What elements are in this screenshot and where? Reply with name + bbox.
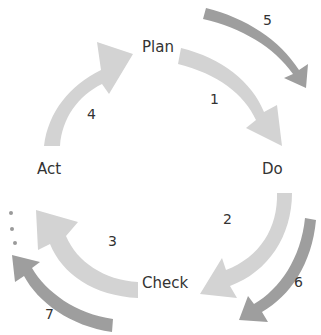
arrow-1-plan-to-do: [178, 48, 282, 146]
arrow-number-7: 7: [45, 306, 54, 322]
arrow-3-check-to-act: [36, 210, 138, 298]
continuation-dot-2: [10, 227, 14, 231]
arrow-4-act-to-plan: [44, 42, 133, 146]
stage-label-act: Act: [37, 160, 61, 178]
arrow-number-3: 3: [108, 233, 117, 249]
arrow-number-6: 6: [294, 274, 303, 290]
continuation-dot-3: [13, 241, 17, 245]
arrow-number-1: 1: [210, 91, 219, 107]
arrow-7: [12, 255, 113, 332]
continuation-dot-1: [9, 211, 13, 215]
stage-label-plan: Plan: [142, 38, 174, 56]
stage-label-check: Check: [142, 274, 188, 292]
arrow-number-4: 4: [87, 106, 96, 122]
arrow-number-5: 5: [263, 12, 272, 28]
arrow-2-do-to-check: [200, 193, 292, 298]
arrow-number-2: 2: [223, 211, 232, 227]
stage-label-do: Do: [262, 160, 283, 178]
